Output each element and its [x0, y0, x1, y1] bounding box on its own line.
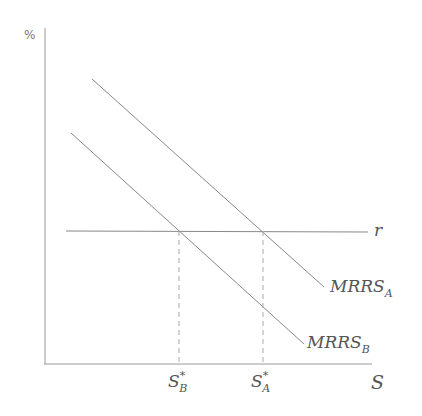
- r-line: [66, 231, 368, 232]
- s-a-sub: A: [262, 382, 270, 395]
- mrrs-a-subscript: A: [385, 287, 393, 300]
- s-b-star-label: S*B: [168, 373, 187, 390]
- mrrs-a-label: MRRSA: [330, 278, 393, 295]
- s-b-base: S: [168, 371, 180, 391]
- diagram-canvas: [0, 0, 422, 416]
- s-b-sup: *: [180, 369, 186, 382]
- mrrs-a-name: MRRS: [330, 276, 385, 296]
- mrrs-b-name: MRRS: [307, 332, 362, 352]
- x-axis-label: S: [371, 373, 384, 392]
- s-b-sub: B: [179, 382, 187, 395]
- r-label: r: [374, 222, 382, 239]
- s-a-sup: *: [263, 369, 269, 382]
- s-a-star-label: S*A: [251, 373, 270, 390]
- mrrs-b-subscript: B: [362, 343, 370, 356]
- s-a-base: S: [251, 371, 263, 391]
- y-axis-label: %: [24, 28, 35, 42]
- mrrs-b-label: MRRSB: [307, 334, 370, 351]
